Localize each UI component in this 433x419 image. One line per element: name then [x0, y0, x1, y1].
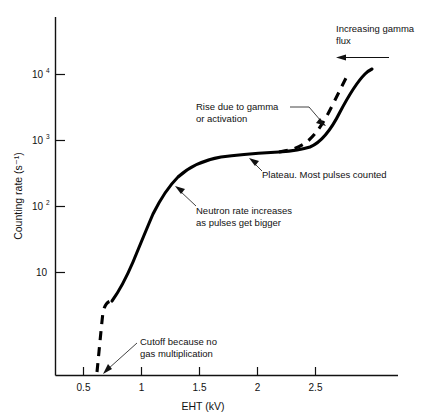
x-tick-label-2.5: 2.5 — [309, 382, 323, 393]
rise-due-to-gamma-leader-line — [290, 107, 326, 126]
cutoff-line-2: gas multiplication — [140, 348, 213, 359]
x-tick-label-1.5: 1.5 — [193, 382, 207, 393]
y-tick-label-100-exponent: 2 — [46, 199, 50, 206]
annotation-increasing-gamma-flux: Increasing gamma flux — [336, 23, 415, 60]
y-tick-label-10000-mantissa: 10 — [32, 69, 44, 80]
neutron-rate-line-2: as pulses get bigger — [196, 217, 281, 228]
y-tick-label-1000-mantissa: 10 — [32, 135, 44, 146]
axes-group — [56, 17, 399, 376]
rise-due-to-gamma-line-1: Rise due to gamma — [196, 101, 279, 112]
increasing-gamma-flux-arrow-icon — [336, 55, 389, 61]
y-ticks-group: 10 4 10 3 10 2 10 — [32, 67, 65, 279]
x-tick-label-0.5: 0.5 — [77, 382, 91, 393]
neutron-rate-leader-line — [175, 186, 196, 206]
increasing-gamma-flux-line-1: Increasing gamma — [336, 23, 415, 34]
x-ticks-group: 0.5 1 1.5 2 2.5 — [77, 367, 323, 393]
y-tick-label-100-mantissa: 10 — [32, 201, 44, 212]
annotation-rise-due-to-gamma: Rise due to gamma or activation — [196, 101, 326, 126]
neutron-rate-line-1: Neutron rate increases — [196, 205, 292, 216]
plateau-label: Plateau. Most pulses counted — [262, 169, 387, 180]
curve-cutoff-dashed — [97, 301, 112, 372]
y-tick-label-10000-exponent: 4 — [46, 67, 50, 74]
counting-rate-chart: 10 4 10 3 10 2 10 0.5 1 1.5 2 2.5 EHT (k… — [0, 0, 433, 419]
curve-gamma-rise-dashed — [279, 74, 348, 152]
figure-container: 10 4 10 3 10 2 10 0.5 1 1.5 2 2.5 EHT (k… — [0, 0, 433, 419]
x-tick-label-1: 1 — [139, 382, 145, 393]
increasing-gamma-flux-line-2: flux — [336, 35, 351, 46]
rise-due-to-gamma-line-2: or activation — [196, 113, 247, 124]
y-tick-label-10: 10 — [36, 267, 48, 278]
y-axis-title: Counting rate (s⁻¹) — [12, 152, 24, 240]
x-tick-label-2: 2 — [255, 382, 261, 393]
cutoff-leader-line — [103, 343, 137, 374]
cutoff-line-1: Cutoff because no — [140, 336, 217, 347]
annotation-neutron-rate: Neutron rate increases as pulses get big… — [175, 186, 292, 228]
y-tick-label-1000-exponent: 3 — [46, 133, 50, 140]
x-axis-title: EHT (kV) — [182, 400, 225, 412]
plateau-leader-line — [249, 158, 262, 171]
annotation-plateau: Plateau. Most pulses counted — [249, 158, 387, 180]
